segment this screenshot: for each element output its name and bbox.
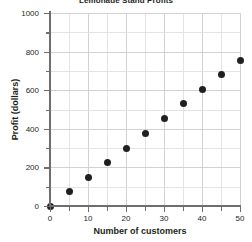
y-axis-tick xyxy=(46,110,51,111)
x-axis-title: Number of customers xyxy=(40,226,240,236)
x-axis-tick xyxy=(88,206,89,212)
y-axis-tick xyxy=(46,71,51,72)
data-point xyxy=(104,159,111,166)
y-axis-tick xyxy=(44,52,50,53)
gridline-horizontal xyxy=(50,167,240,168)
plot-area xyxy=(50,13,240,206)
gridline-horizontal xyxy=(50,32,240,33)
y-axis-tick-label: 600 xyxy=(26,86,39,95)
y-axis-tick xyxy=(44,13,50,14)
y-axis-tick xyxy=(44,90,50,91)
x-axis-tick-label: 0 xyxy=(48,214,52,223)
data-point xyxy=(161,115,168,122)
x-axis-tick-label: 10 xyxy=(84,214,93,223)
gridline-horizontal xyxy=(50,52,240,53)
x-axis-tick xyxy=(126,206,127,212)
x-axis-tick xyxy=(240,206,241,212)
data-point xyxy=(123,145,130,152)
x-axis-tick xyxy=(107,206,108,211)
gridline-horizontal xyxy=(50,110,240,111)
data-point xyxy=(66,188,73,195)
x-axis-tick-label: 40 xyxy=(198,214,207,223)
data-point xyxy=(199,86,206,93)
gridline-horizontal xyxy=(50,71,240,72)
data-point xyxy=(218,71,225,78)
y-axis-title: Profit (dollars) xyxy=(10,13,24,206)
y-axis-tick-label: 800 xyxy=(26,47,39,56)
x-axis-tick-label: 50 xyxy=(236,214,245,223)
gridline-horizontal xyxy=(50,148,240,149)
x-axis-tick xyxy=(145,206,146,211)
data-point xyxy=(237,57,244,64)
gridline-vertical xyxy=(240,13,241,206)
x-axis-tick-label: 20 xyxy=(122,214,131,223)
y-axis-tick xyxy=(44,129,50,130)
x-axis-tick xyxy=(183,206,184,211)
gridline-horizontal xyxy=(50,187,240,188)
y-axis-tick-label: 0 xyxy=(35,202,39,211)
gridline-horizontal xyxy=(50,90,240,91)
y-axis-tick xyxy=(46,187,51,188)
x-axis-tick xyxy=(202,206,203,212)
y-axis-tick xyxy=(46,148,51,149)
y-axis-tick xyxy=(44,167,50,168)
gridline-horizontal xyxy=(50,13,240,14)
data-point xyxy=(180,100,187,107)
x-axis-tick xyxy=(50,206,51,212)
data-point xyxy=(85,174,92,181)
x-axis-tick xyxy=(164,206,165,212)
scatter-chart-figure: Lemonade Stand Profits 02004006008001000… xyxy=(0,0,252,242)
x-axis-tick-label: 30 xyxy=(160,214,169,223)
chart-title: Lemonade Stand Profits xyxy=(0,0,252,5)
data-point xyxy=(142,130,149,137)
x-axis-tick xyxy=(221,206,222,211)
y-axis-tick-label: 400 xyxy=(26,124,39,133)
y-axis-tick xyxy=(46,32,51,33)
y-axis-tick-label: 200 xyxy=(26,163,39,172)
x-axis-tick xyxy=(69,206,70,211)
